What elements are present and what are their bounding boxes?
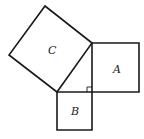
- label-b: B: [70, 105, 79, 118]
- label-a: A: [112, 63, 121, 76]
- pythagorean-diagram: C A B: [0, 0, 144, 139]
- diagram-svg: C A B: [0, 0, 144, 139]
- label-c: C: [48, 44, 57, 57]
